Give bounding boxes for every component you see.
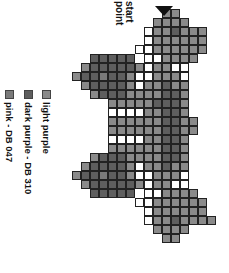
- bead-cell: [189, 198, 198, 207]
- legend-label-pink: pink - DB 047: [4, 102, 15, 162]
- bead-cell: [81, 162, 90, 171]
- bead-cell: [144, 144, 153, 153]
- bead-cell: [90, 90, 99, 99]
- bead-cell: [153, 162, 162, 171]
- bead-cell: [180, 171, 189, 180]
- bead-cell: [171, 126, 180, 135]
- bead-cell: [153, 45, 162, 54]
- bead-cell: [108, 189, 117, 198]
- bead-cell: [144, 36, 153, 45]
- bead-cell: [189, 207, 198, 216]
- bead-cell: [99, 72, 108, 81]
- legend-label-dark-purple: dark purple - DB 310: [23, 102, 34, 194]
- bead-cell: [135, 180, 144, 189]
- bead-cell: [171, 54, 180, 63]
- bead-cell: [126, 117, 135, 126]
- bead-cell: [180, 189, 189, 198]
- bead-cell: [108, 135, 117, 144]
- bead-cell: [117, 144, 126, 153]
- bead-cell: [144, 162, 153, 171]
- bead-cell: [180, 99, 189, 108]
- bead-cell: [171, 99, 180, 108]
- bead-cell: [180, 126, 189, 135]
- bead-cell: [135, 72, 144, 81]
- bead-cell: [153, 225, 162, 234]
- bead-cell: [135, 144, 144, 153]
- bead-cell: [135, 99, 144, 108]
- bead-cell: [171, 198, 180, 207]
- bead-cell: [126, 81, 135, 90]
- bead-cell: [117, 90, 126, 99]
- bead-cell: [81, 72, 90, 81]
- bead-cell: [72, 72, 81, 81]
- bead-cell: [189, 36, 198, 45]
- bead-cell: [99, 63, 108, 72]
- bead-cell: [126, 189, 135, 198]
- bead-cell: [108, 99, 117, 108]
- bead-cell: [180, 144, 189, 153]
- bead-cell: [153, 135, 162, 144]
- bead-cell: [153, 99, 162, 108]
- bead-cell: [90, 180, 99, 189]
- bead-cell: [162, 171, 171, 180]
- bead-cell: [126, 108, 135, 117]
- bead-cell: [162, 36, 171, 45]
- start-arrow-icon: [155, 6, 173, 16]
- bead-cell: [135, 45, 144, 54]
- bead-cell: [171, 36, 180, 45]
- bead-cell: [162, 117, 171, 126]
- bead-cell: [126, 90, 135, 99]
- bead-cell: [162, 198, 171, 207]
- bead-cell: [135, 171, 144, 180]
- bead-cell: [162, 54, 171, 63]
- bead-cell: [117, 54, 126, 63]
- bead-cell: [117, 162, 126, 171]
- bead-cell: [135, 153, 144, 162]
- bead-cell: [171, 63, 180, 72]
- bead-cell: [99, 162, 108, 171]
- bead-cell: [99, 180, 108, 189]
- bead-cell: [126, 162, 135, 171]
- bead-cell: [180, 198, 189, 207]
- bead-cell: [126, 63, 135, 72]
- bead-cell: [171, 18, 180, 27]
- bead-cell: [108, 81, 117, 90]
- bead-cell: [180, 90, 189, 99]
- bead-cell: [180, 36, 189, 45]
- bead-cell: [90, 81, 99, 90]
- bead-cell: [171, 90, 180, 99]
- bead-cell: [162, 72, 171, 81]
- bead-cell: [99, 189, 108, 198]
- bead-cell: [117, 180, 126, 189]
- bead-cell: [108, 180, 117, 189]
- bead-cell: [144, 72, 153, 81]
- bead-cell: [81, 63, 90, 72]
- bead-cell: [126, 54, 135, 63]
- bead-cell: [180, 81, 189, 90]
- bead-cell: [108, 171, 117, 180]
- bead-cell: [189, 54, 198, 63]
- bead-cell: [180, 18, 189, 27]
- bead-cell: [117, 171, 126, 180]
- bead-cell: [198, 45, 207, 54]
- bead-cell: [189, 216, 198, 225]
- bead-cell: [162, 27, 171, 36]
- bead-cell: [99, 81, 108, 90]
- bead-cell: [162, 216, 171, 225]
- bead-cell: [153, 36, 162, 45]
- bead-cell: [135, 117, 144, 126]
- bead-cell: [135, 63, 144, 72]
- bead-cell: [153, 108, 162, 117]
- bead-cell: [171, 171, 180, 180]
- bead-cell: [162, 234, 171, 243]
- bead-cell: [180, 135, 189, 144]
- bead-cell: [180, 216, 189, 225]
- bead-cell: [108, 72, 117, 81]
- bead-cell: [144, 108, 153, 117]
- bead-cell: [189, 45, 198, 54]
- bead-cell: [144, 117, 153, 126]
- bead-cell: [162, 108, 171, 117]
- legend-swatch-pink: [5, 90, 14, 99]
- bead-cell: [126, 135, 135, 144]
- bead-cell: [171, 225, 180, 234]
